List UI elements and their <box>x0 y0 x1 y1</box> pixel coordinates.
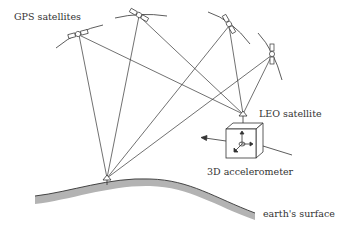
accelerometer-cube <box>226 123 263 158</box>
gps-satellites-label: GPS satellites <box>14 11 81 22</box>
gps-satellite-3 <box>222 14 237 34</box>
orbit-arcs <box>56 12 282 80</box>
earth-surface <box>35 179 255 220</box>
accelerometer-label: 3D accelerometer <box>207 166 294 177</box>
gps-satellite-4 <box>269 44 274 64</box>
gps-leo-diagram: GPS satellites LEO satellite 3D accelero… <box>0 0 347 230</box>
gps-satellite-1 <box>68 29 89 39</box>
leo-satellite-label: LEO satellite <box>259 108 322 119</box>
earth-surface-label: earth's surface <box>263 208 335 219</box>
